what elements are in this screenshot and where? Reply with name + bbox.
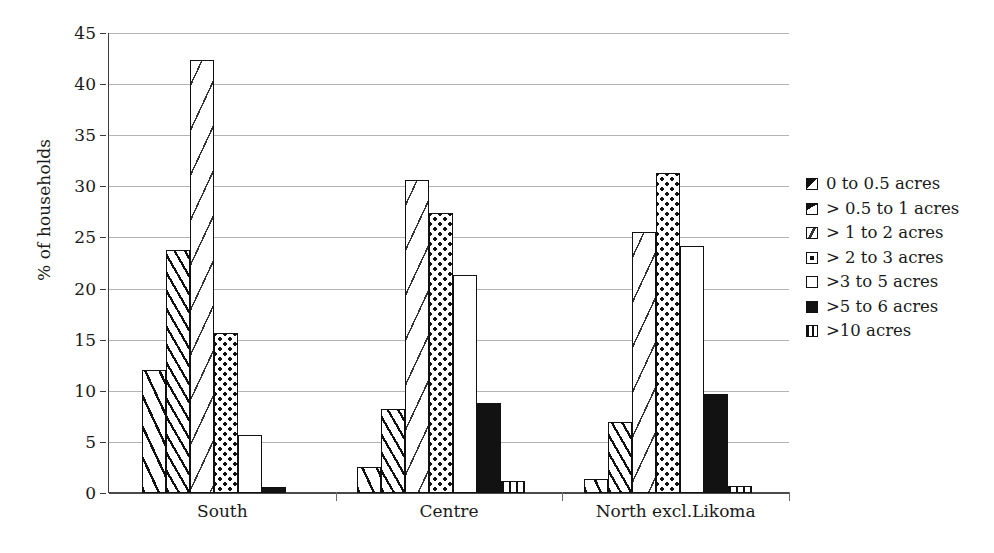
y-axis-tick-label: 20	[74, 279, 96, 299]
legend-item: > 1 to 2 acres	[806, 221, 992, 246]
bar	[632, 232, 656, 493]
gridline	[109, 493, 789, 494]
y-axis-tick-mark	[100, 186, 106, 187]
legend-swatch-icon	[806, 276, 818, 288]
legend-item: >10 acres	[806, 319, 992, 344]
x-axis-category-label: Centre	[419, 501, 478, 521]
legend-item: >3 to 5 acres	[806, 270, 992, 295]
legend-item: >5 to 6 acres	[806, 295, 992, 320]
legend-swatch-icon	[806, 178, 818, 190]
y-axis-tick-mark	[100, 493, 106, 494]
plot-area: SouthCentreNorth excl.Likoma	[108, 33, 789, 493]
y-axis-tick-label: 30	[74, 176, 96, 196]
x-axis-category-label: South	[197, 501, 248, 521]
bar	[680, 246, 704, 493]
x-axis-group-tick	[336, 492, 337, 501]
y-axis-tick-mark	[100, 135, 106, 136]
y-axis-tick-label: 5	[85, 432, 96, 452]
bar	[166, 250, 190, 493]
legend-item-label: >5 to 6 acres	[826, 299, 938, 316]
bar	[453, 275, 477, 493]
y-axis-tick-mark	[100, 391, 106, 392]
legend-item-label: > 2 to 3 acres	[826, 250, 944, 267]
legend-swatch-icon	[806, 203, 818, 215]
bar	[262, 487, 286, 493]
y-axis-tick-label: 0	[85, 483, 96, 503]
legend-item-label: >10 acres	[826, 323, 911, 340]
bar	[142, 370, 166, 493]
bar	[381, 409, 405, 493]
legend-swatch-icon	[806, 252, 818, 264]
x-axis-group-tick	[562, 492, 563, 501]
bar	[405, 180, 429, 493]
legend-swatch-icon	[806, 301, 818, 313]
bar-group	[562, 33, 789, 493]
legend-item: 0 to 0.5 acres	[806, 172, 992, 197]
bar	[190, 60, 214, 493]
legend-item-label: >3 to 5 acres	[826, 274, 938, 291]
y-axis-tick-label: 10	[74, 381, 96, 401]
x-axis-group-tick	[789, 492, 790, 501]
bar	[608, 422, 632, 493]
legend-item-label: 0 to 0.5 acres	[826, 176, 940, 193]
bar	[704, 394, 728, 493]
bar	[238, 435, 262, 493]
legend-swatch-icon	[806, 325, 818, 337]
y-axis-tick-label: 25	[74, 227, 96, 247]
legend-item-label: > 1 to 2 acres	[826, 225, 944, 242]
bar	[429, 213, 453, 493]
y-axis-tick-label: 40	[74, 74, 96, 94]
bar-chart: % of households 051015202530354045 South…	[0, 0, 994, 553]
bar	[584, 479, 608, 493]
y-axis-tick-label: 45	[74, 23, 96, 43]
legend-item-label: > 0.5 to 1 acres	[826, 201, 959, 218]
y-axis-tick-mark	[100, 289, 106, 290]
bar	[501, 481, 525, 493]
bar	[728, 486, 752, 493]
y-axis-tick-mark	[100, 442, 106, 443]
legend-item: > 0.5 to 1 acres	[806, 197, 992, 222]
y-axis-tick-label: 35	[74, 125, 96, 145]
y-axis-tick-mark	[100, 237, 106, 238]
legend-swatch-icon	[806, 227, 818, 239]
x-axis-category-label: North excl.Likoma	[596, 501, 756, 521]
y-axis-tick-labels: 051015202530354045	[0, 0, 110, 553]
bar	[656, 173, 680, 493]
bar	[214, 333, 238, 493]
bar-group	[109, 33, 336, 493]
bar	[477, 403, 501, 493]
bar-group	[336, 33, 563, 493]
legend-item: > 2 to 3 acres	[806, 246, 992, 271]
y-axis-tick-mark	[100, 340, 106, 341]
y-axis-tick-label: 15	[74, 330, 96, 350]
y-axis-tick-mark	[100, 84, 106, 85]
legend: 0 to 0.5 acres> 0.5 to 1 acres> 1 to 2 a…	[806, 172, 992, 344]
y-axis-tick-mark	[100, 33, 106, 34]
bar	[357, 467, 381, 493]
